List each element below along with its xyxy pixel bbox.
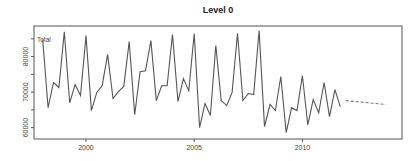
x-tick-label: 2000 (78, 144, 94, 151)
series-line-forecast (346, 101, 386, 105)
series-layer (43, 31, 386, 133)
y-axis: 600007000080000 (22, 39, 34, 138)
chart-title: Level 0 (203, 5, 234, 15)
series-label-total: Total (37, 36, 51, 43)
x-tick-label: 2005 (186, 144, 202, 151)
y-tick-label: 70000 (22, 82, 29, 102)
chart: Level 0 200020052010 600007000080000 Tot… (0, 0, 418, 161)
x-axis: 200020052010 (78, 139, 310, 151)
series-line-total (43, 31, 341, 133)
y-tick-label: 60000 (22, 118, 29, 138)
x-tick-label: 2010 (295, 144, 311, 151)
y-tick-label: 80000 (22, 47, 29, 67)
